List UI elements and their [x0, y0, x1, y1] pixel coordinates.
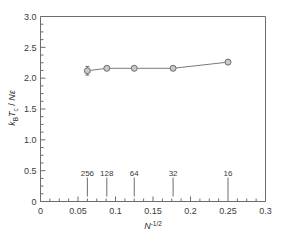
data-point-marker [104, 65, 110, 71]
data-point-marker [131, 65, 137, 71]
y-axis-title: kBTc / Nε [7, 89, 19, 126]
x-axis-title: N-1/2 [144, 220, 162, 231]
svg-text:kBTc / Nε: kBTc / Nε [7, 89, 19, 126]
data-point-marker [170, 65, 176, 71]
inner-size-label: 128 [100, 169, 114, 178]
x-tick-label: 0.1 [109, 206, 122, 216]
x-tick-label: 0.25 [219, 206, 237, 216]
y-tick-label: 2.0 [24, 73, 37, 83]
y-tick-label: 1.5 [24, 104, 37, 114]
inner-size-label: 256 [81, 169, 95, 178]
data-point-marker [84, 68, 90, 74]
inner-size-label: 32 [169, 169, 178, 178]
inner-size-label: 64 [130, 169, 139, 178]
x-tick-label: 0.15 [144, 206, 162, 216]
chart-figure: 00.51.01.52.02.53.000.050.10.150.20.250.… [0, 0, 288, 236]
data-point-marker [225, 59, 231, 65]
x-tick-label: 0.3 [259, 206, 272, 216]
y-tick-label: 0.5 [24, 166, 37, 176]
x-tick-label: 0.05 [69, 206, 87, 216]
y-tick-label: 1.0 [24, 135, 37, 145]
plot-canvas: 00.51.01.52.02.53.000.050.10.150.20.250.… [0, 0, 288, 236]
y-tick-label: 0 [31, 197, 36, 207]
inner-size-label: 16 [224, 169, 233, 178]
y-tick-label: 2.5 [24, 43, 37, 53]
x-tick-label: 0.2 [184, 206, 197, 216]
x-tick-label: 0 [38, 206, 43, 216]
y-tick-label: 3.0 [24, 12, 37, 22]
